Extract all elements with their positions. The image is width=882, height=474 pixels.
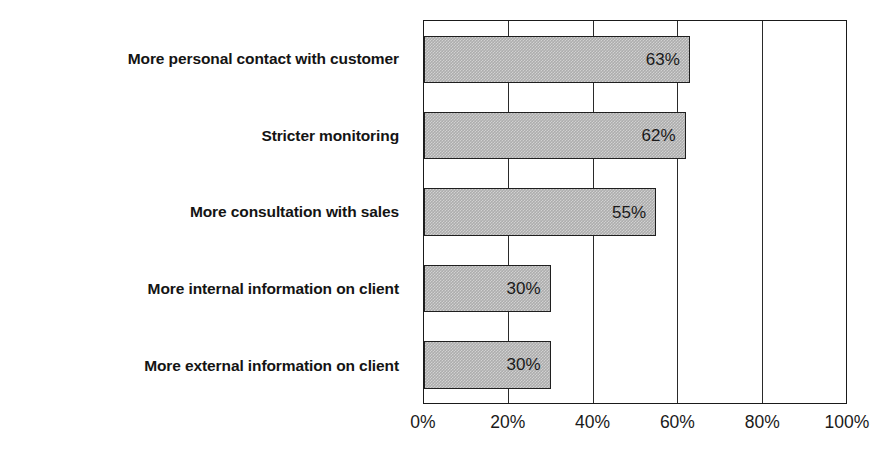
bar-row: 30% [424, 250, 846, 326]
category-label-row: More consultation with sales [0, 174, 411, 251]
category-label-1: Stricter monitoring [261, 127, 399, 144]
x-tick-label-3: 60% [660, 412, 695, 432]
bar-value-label-4: 30% [507, 356, 541, 373]
bar-value-label-0: 63% [646, 51, 680, 68]
bar-row: 55% [424, 174, 846, 250]
category-label-row: More internal information on client [0, 250, 411, 327]
bar-value-label-2: 55% [612, 204, 646, 221]
category-label-4: More external information on client [144, 357, 399, 374]
plot-area: 63% 62% 55% 30% 30% [423, 20, 847, 404]
bar-value-label-1: 62% [642, 127, 676, 144]
x-tick-label-1: 20% [490, 412, 525, 432]
bar-4: 30% [424, 341, 551, 388]
x-axis-tick-labels: 0%20%40%60%80%100% [423, 412, 847, 442]
bar-value-label-3: 30% [507, 280, 541, 297]
category-label-row: Stricter monitoring [0, 97, 411, 174]
bar-row: 30% [424, 327, 846, 403]
bar-row: 63% [424, 21, 846, 97]
x-tick-label-0: 0% [410, 412, 435, 432]
x-tick-label-5: 100% [825, 412, 870, 432]
bar-row: 62% [424, 97, 846, 173]
category-label-row: More external information on client [0, 327, 411, 404]
bar-2: 55% [424, 188, 656, 235]
category-label-2: More consultation with sales [190, 203, 399, 220]
bar-3: 30% [424, 265, 551, 312]
bars-layer: 63% 62% 55% 30% 30% [424, 21, 846, 403]
bar-0: 63% [424, 36, 690, 83]
category-label-row: More personal contact with customer [0, 20, 411, 97]
bar-chart: More personal contact with customer Stri… [0, 0, 882, 474]
category-axis-labels: More personal contact with customer Stri… [0, 20, 411, 404]
x-tick-label-2: 40% [575, 412, 610, 432]
category-label-0: More personal contact with customer [128, 50, 399, 67]
category-label-3: More internal information on client [148, 280, 399, 297]
x-tick-label-4: 80% [745, 412, 780, 432]
bar-1: 62% [424, 112, 686, 159]
